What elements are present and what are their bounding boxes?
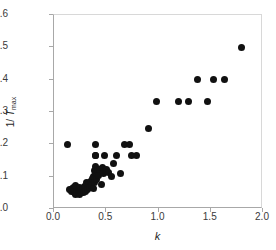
data-point <box>98 181 105 188</box>
data-point <box>210 76 217 83</box>
plot-area <box>53 14 262 208</box>
x-tick-label: 0.0 <box>33 212 73 222</box>
y-axis-title-symbol: T <box>5 110 16 116</box>
x-tick-label: 2.0 <box>242 212 276 222</box>
x-tick-mark <box>262 208 263 212</box>
x-tick-mark <box>53 208 54 212</box>
data-point <box>185 98 192 105</box>
data-point <box>64 141 71 148</box>
x-tick-mark <box>158 208 159 212</box>
data-point <box>204 98 211 105</box>
data-point <box>221 76 228 83</box>
data-point <box>101 152 108 159</box>
data-point <box>108 173 115 180</box>
data-point <box>117 170 124 177</box>
data-point <box>153 98 160 105</box>
x-tick-label: 0.5 <box>85 212 125 222</box>
data-point <box>238 44 245 51</box>
scatter-chart-figure: 0.00.10.20.30.40.50.6 1/ Tmax 0.00.51.01… <box>0 0 276 250</box>
y-tick-label: 0.0 <box>0 203 8 213</box>
data-point <box>113 152 120 159</box>
y-tick-label: 0.1 <box>0 171 8 181</box>
data-point <box>133 152 140 159</box>
data-points-layer <box>54 15 261 207</box>
data-point <box>92 152 99 159</box>
y-tick-label: 0.6 <box>0 9 8 19</box>
x-tick-mark <box>105 208 106 212</box>
data-point <box>194 76 201 83</box>
data-point <box>175 98 182 105</box>
y-axis-title: 1/ Tmax <box>2 62 20 162</box>
y-tick-label: 0.5 <box>0 41 8 51</box>
x-tick-label: 1.5 <box>190 212 230 222</box>
y-axis-title-subscript: max <box>10 97 17 110</box>
data-point <box>90 185 97 192</box>
data-point <box>92 141 99 148</box>
x-tick-mark <box>210 208 211 212</box>
x-axis-title: k <box>53 230 262 242</box>
data-point <box>110 160 117 167</box>
y-axis-title-prefix: 1/ <box>5 116 16 127</box>
data-point <box>126 141 133 148</box>
x-tick-label: 1.0 <box>138 212 178 222</box>
data-point <box>145 125 152 132</box>
